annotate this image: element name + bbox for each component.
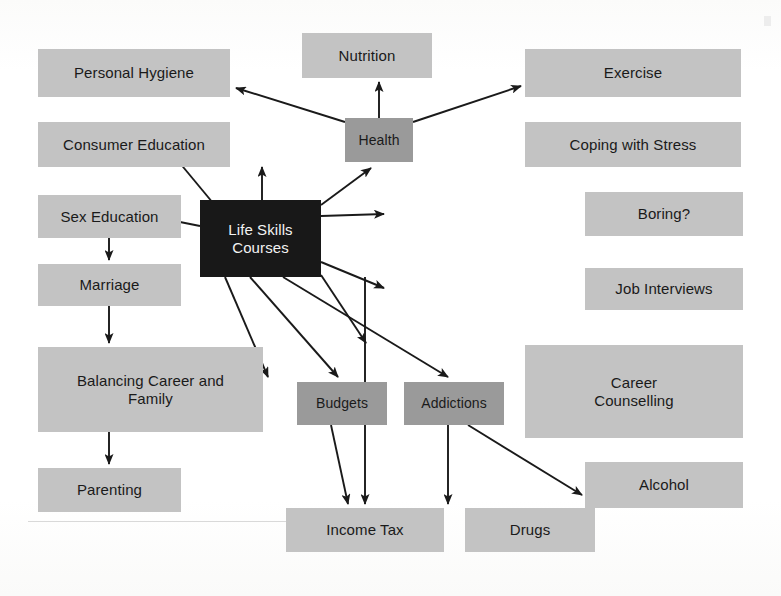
- node-parenting[interactable]: Parenting: [38, 468, 181, 512]
- node-label-sex_education: Sex Education: [60, 208, 158, 226]
- arrow-life-coping: [321, 168, 371, 205]
- node-label-personal_hygiene: Personal Hygiene: [74, 64, 194, 82]
- node-label-addictions: Addictions: [421, 395, 487, 412]
- node-label-budgets: Budgets: [316, 395, 368, 412]
- node-label-boring: Boring?: [638, 205, 690, 223]
- node-career_counselling[interactable]: Career Counselling: [525, 345, 743, 438]
- node-job_interviews[interactable]: Job Interviews: [585, 268, 743, 310]
- node-sex_education[interactable]: Sex Education: [38, 195, 181, 238]
- node-label-exercise: Exercise: [604, 64, 662, 82]
- arrow-health-exercise: [413, 86, 521, 122]
- node-coping[interactable]: Coping with Stress: [525, 122, 741, 167]
- node-label-drugs: Drugs: [510, 521, 551, 539]
- node-addictions[interactable]: Addictions: [404, 382, 504, 425]
- concept-map-canvas: Life Skills CoursesHealthNutritionPerson…: [0, 0, 781, 596]
- node-label-consumer_education: Consumer Education: [63, 136, 205, 154]
- arrow-life-career-counselling: [321, 275, 366, 343]
- node-balancing[interactable]: Balancing Career and Family: [38, 347, 263, 432]
- node-label-balancing: Balancing Career and Family: [77, 372, 224, 407]
- node-alcohol[interactable]: Alcohol: [585, 462, 743, 508]
- node-label-career_counselling: Career Counselling: [594, 374, 673, 409]
- node-label-income_tax: Income Tax: [326, 521, 403, 539]
- node-income_tax[interactable]: Income Tax: [286, 508, 444, 552]
- arrow-life-boring: [321, 214, 384, 216]
- node-life_skills[interactable]: Life Skills Courses: [200, 200, 321, 277]
- arrow-health-personal-hygiene: [236, 88, 345, 122]
- node-nutrition[interactable]: Nutrition: [302, 33, 432, 78]
- node-consumer_education[interactable]: Consumer Education: [38, 122, 230, 167]
- node-label-coping: Coping with Stress: [570, 136, 697, 154]
- node-health[interactable]: Health: [345, 118, 413, 162]
- arrow-life-budgets: [250, 277, 338, 377]
- node-label-health: Health: [358, 132, 399, 149]
- node-drugs[interactable]: Drugs: [465, 508, 595, 552]
- node-budgets[interactable]: Budgets: [297, 382, 387, 425]
- node-label-job_interviews: Job Interviews: [615, 280, 712, 298]
- node-label-parenting: Parenting: [77, 481, 142, 499]
- node-label-life_skills: Life Skills Courses: [204, 221, 317, 256]
- node-marriage[interactable]: Marriage: [38, 264, 181, 306]
- node-personal_hygiene[interactable]: Personal Hygiene: [38, 49, 230, 97]
- arrow-life-job-interviews: [321, 262, 384, 288]
- node-label-alcohol: Alcohol: [639, 476, 689, 494]
- node-label-marriage: Marriage: [80, 276, 140, 294]
- node-boring[interactable]: Boring?: [585, 192, 743, 236]
- node-label-nutrition: Nutrition: [339, 47, 396, 65]
- arrow-budgets-income-tax: [331, 425, 348, 504]
- node-exercise[interactable]: Exercise: [525, 49, 741, 97]
